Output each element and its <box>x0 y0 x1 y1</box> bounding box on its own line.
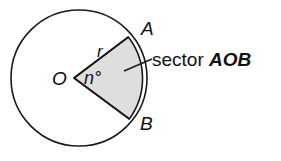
sector-callout-points: AOB <box>208 49 252 70</box>
sector-diagram-svg: O r n° A B sector AOB <box>0 0 281 161</box>
point-label-b: B <box>140 113 153 134</box>
point-label-a: A <box>140 18 154 39</box>
sector-diagram-figure: O r n° A B sector AOB <box>0 0 281 161</box>
center-label-o: O <box>52 68 67 89</box>
sector-callout-word: sector <box>152 49 209 70</box>
angle-label-n-degrees: n° <box>84 68 101 88</box>
sector-callout-text: sector AOB <box>152 49 252 70</box>
